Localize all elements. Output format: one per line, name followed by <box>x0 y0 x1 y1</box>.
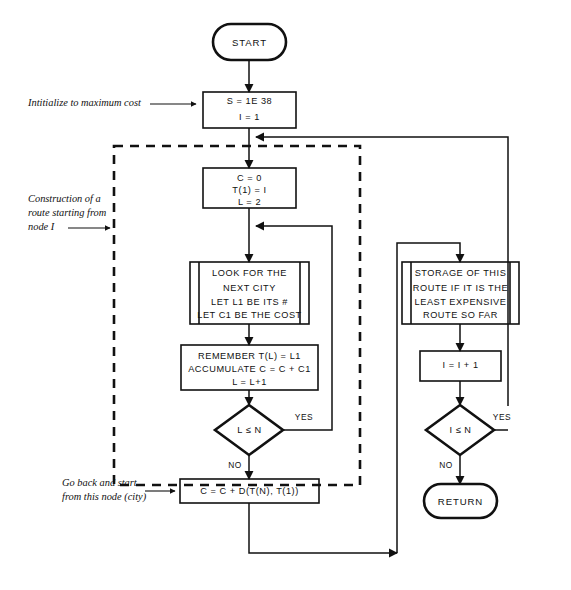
annotation-construction-note: Construction of a route starting from no… <box>28 193 110 232</box>
node-close-route: C = C + D(T(N), T(1)) <box>180 479 319 503</box>
node-storage-line-1: STORAGE OF THIS <box>415 268 507 278</box>
node-start: START <box>213 24 286 60</box>
flowchart-svg: START S = 1E 38 I = 1 C = 0 T(1) = I L =… <box>0 0 571 590</box>
node-route-init: C = 0 T(1) = I L = 2 <box>203 168 296 208</box>
annotation-construction-note-line-1: Construction of a <box>28 193 101 204</box>
node-storage-line-2: ROUTE IF IT IS THE <box>413 283 508 293</box>
annotation-construction-note-line-3: node I <box>28 221 55 232</box>
node-close-route-line-1: C = C + D(T(N), T(1)) <box>200 486 299 496</box>
decision-l-yes-label: YES <box>295 412 313 422</box>
node-route-init-line-3: L = 2 <box>238 197 261 207</box>
flowchart-canvas: START S = 1E 38 I = 1 C = 0 T(1) = I L =… <box>0 0 571 590</box>
annotation-init-note: Intitialize to maximum cost <box>27 97 196 108</box>
annotation-goback-note: Go back and start from this node (city) <box>62 477 175 503</box>
node-look-next-city-line-1: LOOK FOR THE <box>212 268 287 278</box>
node-look-next-city-line-2: NEXT CITY <box>223 283 276 293</box>
decision-l-no-label: NO <box>228 460 242 470</box>
node-increment-i-line-1: I = I + 1 <box>442 360 478 370</box>
decision-i-yes-label: YES <box>493 412 511 422</box>
node-decision-l-label: L ≤ N <box>237 425 261 435</box>
node-look-next-city-line-4: LET C1 BE THE COST <box>197 310 302 320</box>
annotation-goback-note-line-2: from this node (city) <box>62 491 147 503</box>
node-init: S = 1E 38 I = 1 <box>203 92 296 128</box>
node-route-init-line-1: C = 0 <box>237 173 262 183</box>
node-remember-line-1: REMEMBER T(L) = L1 <box>198 351 301 361</box>
node-route-init-line-2: T(1) = I <box>232 185 266 195</box>
node-remember-line-3: L = L+1 <box>232 377 267 387</box>
node-decision-l: L ≤ N YES NO <box>215 405 313 470</box>
node-look-next-city: LOOK FOR THE NEXT CITY LET L1 BE ITS # L… <box>190 262 309 324</box>
node-remember: REMEMBER T(L) = L1 ACCUMULATE C = C + C1… <box>181 345 318 390</box>
node-return: RETURN <box>424 484 497 518</box>
node-return-label: RETURN <box>438 496 483 507</box>
node-storage-line-3: LEAST EXPENSIVE <box>415 297 507 307</box>
node-decision-i: I ≤ N YES NO <box>426 405 511 470</box>
node-init-line-1: S = 1E 38 <box>227 96 273 106</box>
node-start-label: START <box>232 37 267 48</box>
annotation-init-note-line-1: Intitialize to maximum cost <box>27 97 142 108</box>
decision-i-no-label: NO <box>439 460 453 470</box>
node-increment-i: I = I + 1 <box>420 351 501 381</box>
node-storage-line-4: ROUTE SO FAR <box>423 310 498 320</box>
annotation-goback-note-line-1: Go back and start <box>62 477 138 488</box>
annotation-construction-note-line-2: route starting from <box>28 207 107 218</box>
node-init-line-2: I = 1 <box>239 112 260 122</box>
connector-close-route-to-right-column <box>249 503 397 553</box>
node-decision-i-label: I ≤ N <box>449 425 471 435</box>
node-storage: STORAGE OF THIS ROUTE IF IT IS THE LEAST… <box>402 262 519 324</box>
connector-yes-loop-to-look <box>256 226 332 430</box>
node-remember-line-2: ACCUMULATE C = C + C1 <box>188 364 311 374</box>
node-look-next-city-line-3: LET L1 BE ITS # <box>211 297 288 307</box>
